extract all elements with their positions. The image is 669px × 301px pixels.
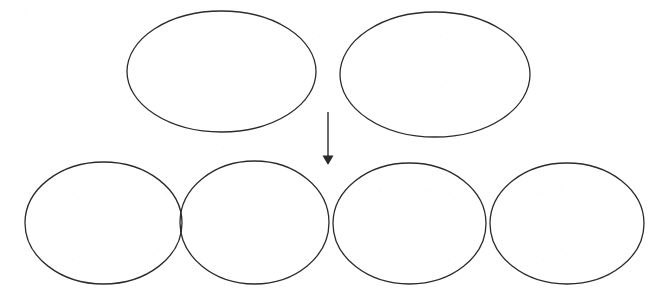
bottom-ellipse-4[interactable] bbox=[490, 163, 644, 284]
down-arrow bbox=[323, 112, 334, 165]
bottom-ellipse-2[interactable] bbox=[180, 161, 329, 284]
down-arrow-head-icon bbox=[323, 156, 334, 166]
diagram-canvas bbox=[0, 0, 669, 301]
top-ellipse-1[interactable] bbox=[127, 11, 316, 132]
bottom-ellipse-1[interactable] bbox=[25, 162, 182, 284]
bottom-row-group bbox=[25, 161, 644, 284]
top-ellipse-2[interactable] bbox=[340, 12, 530, 137]
bottom-ellipse-3[interactable] bbox=[333, 163, 486, 284]
part-whole-diagram bbox=[0, 0, 669, 301]
